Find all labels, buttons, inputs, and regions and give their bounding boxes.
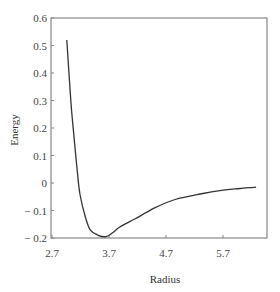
y-tick-label: 0.4	[33, 67, 47, 79]
y-tick-label: 0.2	[33, 122, 47, 134]
y-tick-label: − 0.1	[24, 205, 47, 217]
y-tick-label: 0.6	[33, 12, 47, 24]
y-tick-label: 0.1	[33, 150, 47, 162]
x-tick-label: 4.7	[159, 247, 173, 259]
y-tick-label: 0	[42, 177, 48, 189]
x-axis-label: Radius	[150, 273, 181, 285]
y-tick-label: 0.5	[33, 40, 47, 52]
y-axis-label: Energy	[8, 114, 20, 146]
plot-frame	[51, 18, 267, 238]
y-tick-label: 0.3	[33, 95, 47, 107]
y-axis-ticks: 0.60.50.40.30.20.10− 0.1− 0.2	[24, 12, 54, 244]
x-axis-ticks: 2.73.74.75.7	[45, 235, 230, 259]
x-tick-label: 5.7	[216, 247, 230, 259]
energy-radius-chart: 0.60.50.40.30.20.10− 0.1− 0.2 2.73.74.75…	[0, 0, 280, 292]
x-tick-label: 2.7	[45, 247, 59, 259]
energy-curve	[67, 40, 256, 237]
y-tick-label: − 0.2	[24, 232, 47, 244]
x-tick-label: 3.7	[102, 247, 116, 259]
